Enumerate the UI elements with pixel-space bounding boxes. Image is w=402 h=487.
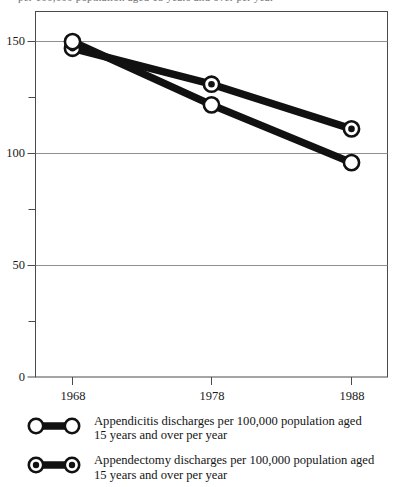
- x-tick-label-1968: 1968: [43, 390, 103, 403]
- y-tick-label-0: 0: [0, 371, 25, 384]
- open-circle-line-icon: [26, 415, 82, 437]
- legend-label-appendicitis: Appendicitis discharges per 100,000 popu…: [82, 414, 402, 442]
- chart-legend: Appendicitis discharges per 100,000 popu…: [0, 414, 402, 487]
- legend-item-appendicitis: Appendicitis discharges per 100,000 popu…: [0, 414, 402, 442]
- legend-label-appendectomy-line1: Appendectomy discharges per 100,000 popu…: [94, 453, 374, 467]
- y-tick-label-150: 150: [0, 35, 25, 48]
- y-tick-label-50: 50: [0, 259, 25, 272]
- legend-label-appendicitis-line2: 15 years and over per year: [94, 428, 402, 442]
- legend-label-appendicitis-line1: Appendicitis discharges per 100,000 popu…: [94, 414, 362, 428]
- line-chart-plot: [0, 0, 402, 410]
- y-tick-label-100: 100: [0, 147, 25, 160]
- legend-label-appendectomy: Appendectomy discharges per 100,000 popu…: [82, 453, 402, 481]
- plot-frame: [36, 12, 388, 378]
- y-axis-minor-ticks: [29, 98, 36, 322]
- chart-figure: 150 100 50 0 1968 1978 1988: [0, 0, 402, 410]
- x-tick-label-1978: 1978: [182, 390, 242, 403]
- legend-item-appendectomy: Appendectomy discharges per 100,000 popu…: [0, 453, 402, 481]
- legend-label-appendectomy-line2: 15 years and over per year: [94, 468, 402, 482]
- dotted-circle-line-icon: [26, 454, 82, 476]
- x-tick-label-1988: 1988: [322, 390, 382, 403]
- x-axis-ticks: [73, 377, 352, 385]
